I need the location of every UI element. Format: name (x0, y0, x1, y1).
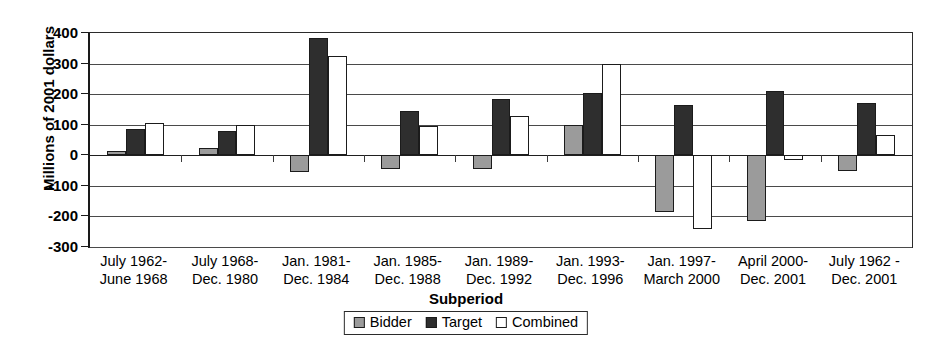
x-tick-label: Jan. 1989-Dec. 1992 (453, 252, 544, 288)
x-tick-label-line: Dec. 2001 (819, 270, 910, 288)
bar-bidder-6 (655, 155, 674, 212)
bar-target-2 (309, 38, 328, 156)
x-tick-mark (455, 155, 456, 162)
bar-target-7 (766, 91, 785, 155)
y-tick-mark (81, 185, 88, 186)
bar-target-4 (492, 99, 511, 156)
bar-combined-3 (419, 126, 438, 155)
x-tick-label: Jan. 1981-Dec. 1984 (271, 252, 362, 288)
x-tick-label-line: Jan. 1993- (545, 252, 636, 270)
x-tick-label-line: Dec. 1988 (362, 270, 453, 288)
x-tick-mark (364, 155, 365, 162)
y-tick-mark (81, 124, 88, 125)
x-tick-label-line: April 2000- (727, 252, 818, 270)
chart-legend: BidderTargetCombined (344, 311, 588, 335)
x-tick-mark (821, 155, 822, 162)
x-tick-label-line: Dec. 1996 (545, 270, 636, 288)
bar-bidder-5 (564, 125, 583, 156)
gridline--300 (90, 247, 912, 248)
bar-combined-4 (510, 116, 529, 156)
bar-combined-5 (602, 64, 621, 156)
bar-target-6 (674, 105, 693, 155)
bar-target-3 (400, 111, 419, 155)
x-axis-title: Subperiod (0, 290, 932, 307)
y-tick-label: 400 (0, 24, 88, 41)
bar-bidder-1 (199, 148, 218, 156)
bar-chart: Millions of 2001 dollars 4003002001000-1… (0, 0, 932, 355)
x-tick-label-line: Jan. 1997- (636, 252, 727, 270)
x-tick-label-line: June 1968 (88, 270, 179, 288)
x-tick-label-line: March 2000 (636, 270, 727, 288)
bar-bidder-3 (381, 155, 400, 169)
x-tick-mark (638, 155, 639, 162)
bar-target-8 (857, 103, 876, 155)
x-tick-label-line: July 1962 - (819, 252, 910, 270)
y-tick-label: 200 (0, 85, 88, 102)
y-tick-mark (81, 63, 88, 64)
x-tick-label-line: Dec. 1992 (453, 270, 544, 288)
x-tick-label-line: July 1968- (179, 252, 270, 270)
y-tick-label: -200 (0, 207, 88, 224)
x-tick-label-line: Jan. 1989- (453, 252, 544, 270)
bar-combined-2 (328, 56, 347, 155)
x-tick-mark (547, 155, 548, 162)
x-tick-label: Jan. 1993-Dec. 1996 (545, 252, 636, 288)
y-tick-label: 100 (0, 115, 88, 132)
y-tick-mark (81, 154, 88, 155)
x-tick-label: July 1962 -Dec. 2001 (819, 252, 910, 288)
y-tick-label: -100 (0, 176, 88, 193)
x-tick-label-line: Dec. 2001 (727, 270, 818, 288)
y-tick-label: 300 (0, 54, 88, 71)
legend-label: Target (442, 315, 482, 330)
bar-bidder-8 (838, 155, 857, 170)
x-tick-label: Jan. 1985-Dec. 1988 (362, 252, 453, 288)
x-axis-tick-labels: July 1962-June 1968July 1968-Dec. 1980Ja… (88, 252, 913, 292)
plot-area (88, 32, 913, 248)
x-tick-label: July 1968-Dec. 1980 (179, 252, 270, 288)
legend-item-target: Target (426, 315, 482, 330)
x-tick-label-line: July 1962- (88, 252, 179, 270)
x-tick-label-line: Dec. 1980 (179, 270, 270, 288)
legend-item-combined: Combined (496, 315, 578, 330)
x-tick-label-line: Jan. 1985- (362, 252, 453, 270)
bar-combined-1 (236, 125, 255, 156)
bar-bidder-7 (747, 155, 766, 221)
bar-combined-7 (784, 155, 803, 160)
bar-target-5 (583, 93, 602, 156)
y-tick-label: -300 (0, 238, 88, 255)
bar-target-0 (126, 129, 145, 155)
y-tick-label: 0 (0, 146, 88, 163)
x-tick-label: April 2000-Dec. 2001 (727, 252, 818, 288)
legend-label: Combined (512, 315, 578, 330)
x-tick-label: Jan. 1997-March 2000 (636, 252, 727, 288)
legend-swatch-bidder-icon (354, 317, 365, 328)
bar-bidder-2 (290, 155, 309, 172)
bar-combined-8 (876, 135, 895, 155)
x-tick-label-line: Dec. 1984 (271, 270, 362, 288)
legend-swatch-target-icon (426, 317, 437, 328)
bar-combined-6 (693, 155, 712, 228)
y-tick-mark (81, 93, 88, 94)
bar-bidder-4 (473, 155, 492, 169)
y-tick-mark (81, 215, 88, 216)
x-tick-label-line: Jan. 1981- (271, 252, 362, 270)
x-tick-mark (273, 155, 274, 162)
y-tick-mark (81, 32, 88, 33)
x-tick-label: July 1962-June 1968 (88, 252, 179, 288)
y-tick-mark (81, 246, 88, 247)
bar-target-1 (218, 131, 237, 155)
x-tick-mark (729, 155, 730, 162)
legend-item-bidder: Bidder (354, 315, 412, 330)
legend-swatch-combined-icon (496, 317, 507, 328)
bar-combined-0 (145, 123, 164, 155)
x-tick-mark (181, 155, 182, 162)
bar-series-container (90, 33, 912, 247)
bar-bidder-0 (107, 151, 126, 156)
legend-label: Bidder (370, 315, 412, 330)
